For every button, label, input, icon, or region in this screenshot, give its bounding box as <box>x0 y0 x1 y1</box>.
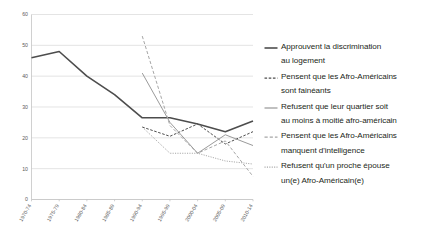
legend-entry-1[interactable]: Approuvent la discriminationau logement <box>264 40 443 69</box>
x-tick-label: 1985-89 <box>101 203 116 223</box>
legend-label: Refusent qu'un proche épouseun(e) Afro-A… <box>281 159 390 188</box>
x-tick-label: 1995-99 <box>156 203 171 223</box>
y-tick-label: 10 <box>22 166 28 172</box>
legend-swatch-icon <box>264 130 278 144</box>
legend-label-line: Pensent que les Afro-Américains <box>281 70 397 84</box>
y-tick-label: 60 <box>22 11 28 17</box>
chart-figure: 0102030405060 1970-741975-791980-841985-… <box>0 0 443 245</box>
legend-entry-2[interactable]: Pensent que les Afro-Américainssont fain… <box>264 70 443 99</box>
legend-label-line: manquent d'intelligence <box>281 144 397 158</box>
legend-label-line: Refusent que leur quartier soit <box>281 100 397 114</box>
legend-label: Approuvent la discriminationau logement <box>281 40 381 69</box>
x-tick-label: 1990-94 <box>128 203 143 223</box>
chart-svg: 0102030405060 1970-741975-791980-841985-… <box>0 0 262 245</box>
y-tick-label: 40 <box>22 73 28 79</box>
x-tick-label: 1975-79 <box>45 203 60 223</box>
y-tick-label: 20 <box>22 135 28 141</box>
x-tick-label: 2005-09 <box>211 203 226 223</box>
x-tick-label: 2010-14 <box>239 203 254 223</box>
legend-label-line: au moins à moitié afro-américain <box>281 114 397 128</box>
chart-legend: Approuvent la discriminationau logementP… <box>264 40 443 189</box>
legend-label-line: sont fainéants <box>281 84 397 98</box>
gridlines <box>32 15 254 200</box>
legend-entry-3[interactable]: Refusent que leur quartier soitau moins … <box>264 100 443 129</box>
legend-entry-5[interactable]: Refusent qu'un proche épouseun(e) Afro-A… <box>264 159 443 188</box>
legend-label-line: Pensent que les Afro-Américains <box>281 129 397 143</box>
legend-label-line: Approuvent la discrimination <box>281 40 381 54</box>
legend-entry-4[interactable]: Pensent que les Afro-Américainsmanquent … <box>264 129 443 158</box>
y-tick-label: 50 <box>22 42 28 48</box>
legend-label: Pensent que les Afro-Américainsmanquent … <box>281 129 397 158</box>
legend-label: Refusent que leur quartier soitau moins … <box>281 100 397 129</box>
series-line-1 <box>32 52 254 132</box>
series-line-4 <box>142 36 253 176</box>
y-axis-tick-labels: 0102030405060 <box>22 11 28 202</box>
series-line-3 <box>142 73 253 153</box>
legend-label: Pensent que les Afro-Américainssont fain… <box>281 70 397 99</box>
legend-label-line: au logement <box>281 54 381 68</box>
x-tick-label: 1970-74 <box>18 203 33 223</box>
legend-swatch-icon <box>264 71 278 85</box>
legend-label-line: un(e) Afro-Américain(e) <box>281 174 390 188</box>
legend-swatch-icon <box>264 41 278 55</box>
legend-swatch-icon <box>264 101 278 115</box>
y-tick-label: 0 <box>25 196 28 202</box>
x-tick-label: 1980-84 <box>73 203 88 223</box>
x-tick-label: 2000-04 <box>184 203 199 223</box>
x-axis-tick-labels: 1970-741975-791980-841985-891990-941995-… <box>18 200 254 223</box>
data-series <box>32 36 254 176</box>
legend-label-line: Refusent qu'un proche épouse <box>281 159 390 173</box>
plot-area: 0102030405060 1970-741975-791980-841985-… <box>0 0 262 245</box>
y-tick-label: 30 <box>22 104 28 110</box>
legend-swatch-icon <box>264 160 278 174</box>
